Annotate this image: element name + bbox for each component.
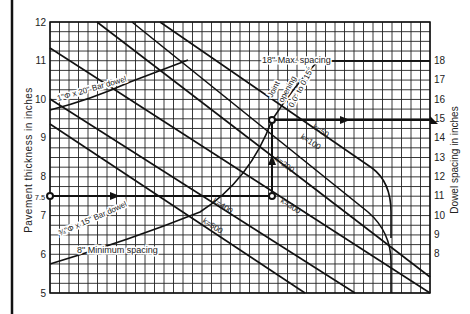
svg-text:6: 6 <box>40 249 46 260</box>
svg-text:7.5: 7.5 <box>35 193 45 202</box>
svg-text:10: 10 <box>434 210 446 221</box>
svg-text:11: 11 <box>36 55 47 66</box>
svg-text:11: 11 <box>434 190 445 201</box>
svg-text:5: 5 <box>40 288 46 299</box>
nomograph-chart: 12 11 10 9 8 7 6 5 7.5 18 17 16 15 14 13… <box>0 0 470 314</box>
svg-text:18" Max. spacing: 18" Max. spacing <box>262 55 331 65</box>
svg-text:9: 9 <box>40 132 46 143</box>
svg-text:18: 18 <box>434 55 446 66</box>
y-axis-ticks: 12 11 10 9 8 7 6 5 <box>35 17 47 299</box>
svg-text:12: 12 <box>434 171 446 182</box>
svg-text:7: 7 <box>40 210 46 221</box>
svg-text:10: 10 <box>35 94 47 105</box>
y2-axis-label: Dowel spacing in inches <box>449 106 460 213</box>
svg-text:14: 14 <box>434 132 446 143</box>
y-axis-label: Pavement thickness in inches <box>23 87 34 233</box>
chart-svg: 12 11 10 9 8 7 6 5 7.5 18 17 16 15 14 13… <box>0 0 470 314</box>
y2-axis-ticks: 18 17 16 15 14 13 12 11 10 9 8 <box>434 55 446 259</box>
svg-text:12: 12 <box>35 17 47 28</box>
svg-text:¾"Φ x 15" Bar dowel: ¾"Φ x 15" Bar dowel <box>57 199 128 237</box>
svg-text:8: 8 <box>434 248 440 259</box>
svg-text:17: 17 <box>434 74 446 85</box>
svg-text:16: 16 <box>434 94 446 105</box>
svg-text:9: 9 <box>434 229 440 240</box>
svg-text:k=100: k=100 <box>299 132 323 152</box>
svg-text:8" Minimum spacing: 8" Minimum spacing <box>77 245 158 255</box>
svg-text:8: 8 <box>40 171 46 182</box>
svg-text:13: 13 <box>434 152 446 163</box>
